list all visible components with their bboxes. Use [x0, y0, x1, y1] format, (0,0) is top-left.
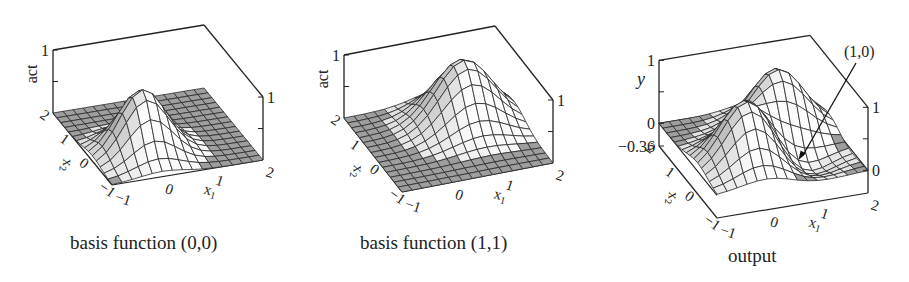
z-axis-label: act: [23, 64, 40, 83]
surface-mesh: [659, 69, 868, 195]
y-tick-label: 0: [367, 161, 382, 178]
z-tick-label-right: 1: [557, 92, 565, 109]
caption-basis-11: basis function (1,1): [360, 232, 507, 254]
surface-plot-output: −1012−1012x1x210−0.3610y(1,0): [600, 0, 909, 282]
x-tick-label: 0: [163, 180, 175, 198]
y-axis-subscript: 2: [663, 199, 674, 205]
x-tick-label: 1: [504, 176, 516, 194]
caption-basis-00: basis function (0,0): [70, 232, 217, 254]
x-tick-label: 2: [264, 164, 276, 182]
box-top-back-edge: [659, 35, 810, 60]
z-tick-label-left: 1: [647, 52, 655, 69]
box-top-right-edge: [495, 26, 553, 100]
y-axis-subscript: 2: [57, 166, 68, 172]
panel-output: −1012−1012x1x210−0.3610y(1,0) output: [600, 0, 909, 282]
z-tick-label-left: 1: [332, 47, 340, 64]
caption-output: output: [728, 245, 777, 267]
y-tick-label: 1: [57, 130, 72, 147]
x-axis-subscript: 1: [499, 194, 507, 206]
y-axis-label: x2: [57, 158, 76, 172]
y-tick-label: 2: [328, 111, 343, 128]
y-axis-label: x2: [348, 164, 367, 178]
z-axis-label: act: [314, 69, 331, 88]
x-tick-label: 2: [554, 167, 566, 185]
y-axis-label: x2: [663, 191, 682, 205]
y-tick-label: 0: [77, 154, 92, 171]
x-axis: [717, 193, 868, 218]
box-top-back-edge: [53, 25, 204, 50]
x-tick-label: 1: [819, 205, 831, 223]
y-tick-label: 0: [682, 187, 697, 204]
z-axis-label: y: [635, 69, 645, 89]
surface-mesh: [53, 88, 263, 185]
x-tick-label: −1: [113, 189, 133, 209]
x-tick-label: 2: [869, 197, 881, 215]
z-tick-label-left: 0: [647, 115, 655, 132]
z-tick-label-right: 1: [872, 99, 880, 116]
z-tick-label-left: 1: [41, 42, 49, 59]
x-tick-label: 1: [214, 172, 226, 190]
x-tick-label: 0: [453, 186, 465, 204]
y-tick-label: 2: [37, 106, 52, 123]
x-axis-subscript: 1: [814, 222, 822, 234]
y-tick-label: 1: [348, 136, 363, 153]
z-tick-label-right: 1: [267, 89, 275, 106]
box-top-right-edge: [204, 25, 263, 97]
y-tick-label: 1: [663, 163, 678, 180]
x-tick-label: −1: [718, 222, 738, 242]
x-axis-subscript: 1: [209, 189, 217, 201]
annotation-label: (1,0): [844, 43, 875, 61]
box-top-back-edge: [344, 26, 495, 55]
y-axis-subscript: 2: [348, 172, 359, 178]
z-tick-label-right: 0: [872, 162, 880, 179]
panel-basis-00: −1012−1012x1x211act basis function (0,0): [0, 0, 300, 282]
x-tick-label: 0: [768, 213, 780, 231]
x-tick-label: −1: [403, 196, 423, 216]
z-tick-label-left: −0.36: [618, 138, 655, 155]
panel-basis-11: −1012−1012x1x211act basis function (1,1): [300, 0, 600, 282]
